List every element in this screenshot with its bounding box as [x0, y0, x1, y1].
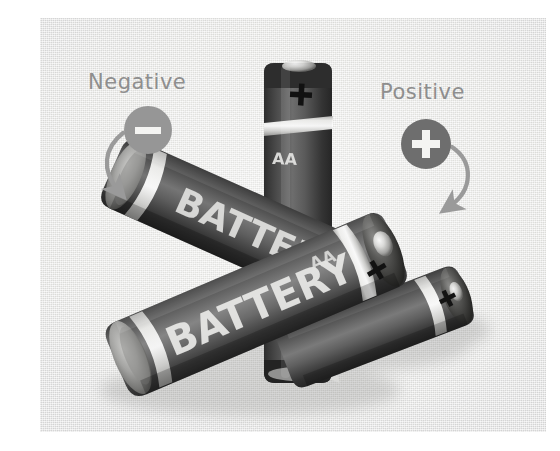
positive-badge: [401, 119, 451, 169]
positive-arrow: [450, 147, 468, 206]
positive-label: Positive: [380, 80, 465, 104]
minus-icon: [135, 127, 161, 134]
negative-label: Negative: [88, 70, 186, 94]
negative-badge: [124, 106, 172, 154]
battery-scene: AA BATTERY BATTERY: [0, 0, 560, 451]
battery-terminals-figure: AA BATTERY BATTERY: [0, 0, 560, 451]
plus-icon-vertical: [422, 130, 430, 158]
